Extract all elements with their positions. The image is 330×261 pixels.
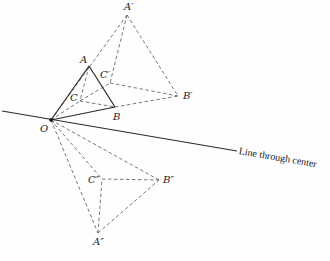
dashed-construction-lines <box>51 15 178 233</box>
point-label-B: B <box>113 112 120 122</box>
solid-segment-O-B <box>51 107 115 120</box>
point-label-C1: C′ <box>100 70 110 80</box>
dashed-segment-A-C <box>80 66 89 101</box>
point-label-C2: C″ <box>88 175 99 185</box>
dashed-segment-A2-B2 <box>98 180 159 233</box>
point-label-A1: A′ <box>124 2 134 12</box>
center-point-O <box>49 118 53 122</box>
dashed-segment-C1-B1 <box>110 83 178 96</box>
dashed-segment-A1-C1 <box>110 15 127 83</box>
dashed-segment-A1-B1 <box>127 15 178 96</box>
dashed-segment-C-B <box>80 101 115 107</box>
diagram-canvas: OABCA′B′C′A″B″C″ Line through center <box>0 0 330 261</box>
point-label-C: C <box>70 93 78 103</box>
point-label-B2: B″ <box>163 175 174 185</box>
dashed-segment-O-C2 <box>51 120 102 179</box>
point-label-A: A <box>80 55 87 65</box>
dashed-segment-B-B1 <box>115 96 178 107</box>
point-label-A2: A″ <box>93 237 104 247</box>
dashed-segment-A2-C2 <box>98 179 102 233</box>
point-label-B1: B′ <box>183 91 193 101</box>
point-label-O: O <box>40 124 48 134</box>
dashed-segment-C2-B2 <box>102 179 159 180</box>
construction-figure <box>0 0 330 261</box>
